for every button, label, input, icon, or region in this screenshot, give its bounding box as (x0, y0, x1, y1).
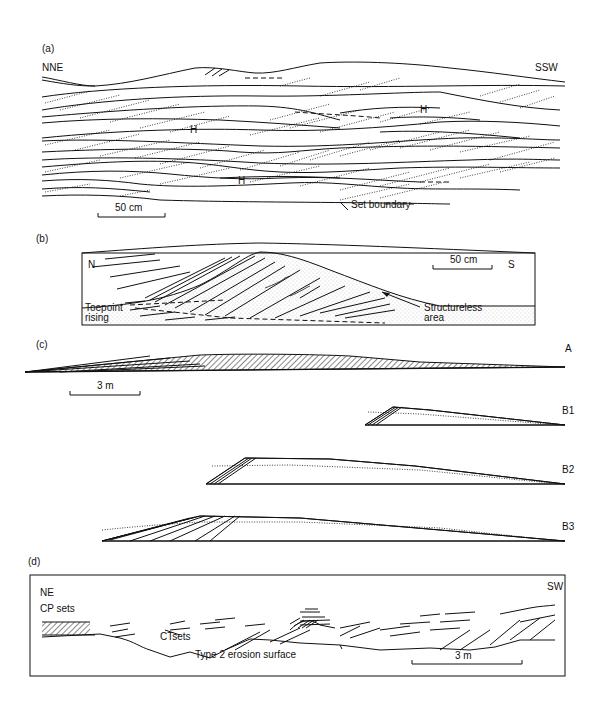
profile-b2-label: B2 (562, 464, 574, 475)
panel-b-label: (b) (36, 233, 48, 244)
panel-d-drawing (30, 575, 565, 676)
profile-a-label: A (565, 343, 572, 354)
orientation-ne: NE (40, 587, 54, 598)
panel-d-scale-label: 3 m (455, 650, 472, 661)
ct-sets-label: CTsets (160, 631, 191, 642)
orientation-n: N (88, 259, 95, 270)
set-boundary-annotation: Set boundary (351, 199, 411, 210)
profile-b3-label: B3 (562, 521, 574, 532)
panel-d-label: (d) (28, 556, 40, 567)
orientation-nne: NNE (42, 62, 63, 73)
panel-b-scale-label: 50 cm (450, 254, 477, 265)
panel-a-drawing (42, 62, 565, 217)
toepoint-label-line2: rising (85, 312, 109, 323)
marker-h-2: H (190, 124, 197, 135)
panel-a-scale-label: 50 cm (115, 202, 142, 213)
orientation-s: S (508, 259, 515, 270)
structureless-label-line2: area (424, 312, 444, 323)
figure-drawing (0, 0, 600, 714)
profile-b1-label: B1 (562, 405, 574, 416)
marker-h-3: H (238, 175, 245, 186)
panel-c-label: (c) (36, 339, 48, 350)
panel-a-label: (a) (42, 43, 54, 54)
orientation-sw: SW (547, 581, 563, 592)
cp-sets-label: CP sets (40, 603, 75, 614)
marker-h-1: H (420, 104, 427, 115)
erosion-surface-label: Type 2 erosion surface (195, 649, 296, 660)
orientation-ssw: SSW (535, 62, 558, 73)
panel-c-scale-label: 3 m (97, 380, 114, 391)
